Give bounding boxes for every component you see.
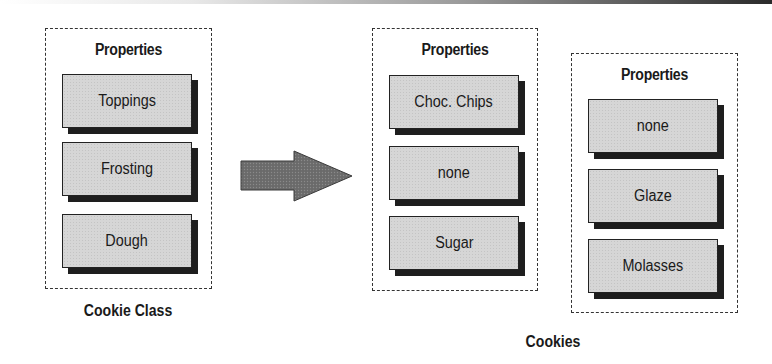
object-1-properties-title: Properties bbox=[383, 41, 527, 59]
class-property-dough: Dough bbox=[62, 214, 192, 268]
class-properties-title: Properties bbox=[56, 41, 201, 59]
class-property-frosting: Frosting bbox=[62, 142, 192, 196]
cookie-object-2-box: Properties none Glaze Molasses bbox=[571, 53, 738, 313]
property-label: Dough bbox=[106, 232, 148, 250]
property-label: Molasses bbox=[623, 257, 684, 275]
top-rule bbox=[0, 0, 772, 4]
right-arrow-icon bbox=[240, 150, 354, 202]
cookie-object-1-box: Properties Choc. Chips none Sugar bbox=[372, 28, 538, 291]
property-label: none bbox=[438, 164, 470, 182]
property-label: Frosting bbox=[101, 160, 153, 178]
object-1-property-none: none bbox=[389, 146, 519, 200]
property-label: none bbox=[637, 117, 669, 135]
object-1-property-choc-chips: Choc. Chips bbox=[389, 75, 519, 129]
object-1-property-sugar: Sugar bbox=[389, 216, 519, 270]
property-label: Toppings bbox=[98, 92, 156, 110]
object-2-property-molasses: Molasses bbox=[588, 239, 718, 293]
property-label: Glaze bbox=[634, 187, 672, 205]
cookie-class-box: Properties Toppings Frosting Dough bbox=[45, 28, 212, 289]
object-2-property-glaze: Glaze bbox=[588, 169, 718, 223]
property-label: Sugar bbox=[435, 234, 473, 252]
cookie-class-caption: Cookie Class bbox=[68, 302, 188, 320]
object-2-properties-title: Properties bbox=[582, 66, 727, 84]
property-label: Choc. Chips bbox=[415, 93, 493, 111]
cookies-caption: Cookies bbox=[506, 333, 599, 351]
class-property-toppings: Toppings bbox=[62, 74, 192, 128]
object-2-property-none: none bbox=[588, 99, 718, 153]
